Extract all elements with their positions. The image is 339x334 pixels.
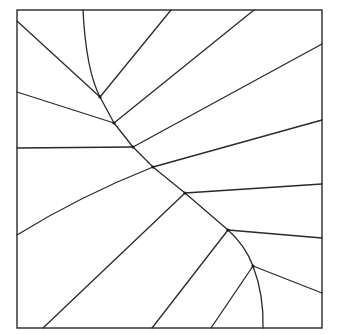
edge-e-v5-bottom [43, 193, 185, 328]
vertex-V3 [131, 145, 134, 148]
subdivision-diagram [0, 0, 339, 334]
edge-e-v2-v3 [114, 123, 133, 147]
square-frame [17, 10, 322, 328]
edge-e-left-v1 [17, 21, 100, 97]
vertex-V6 [226, 228, 229, 231]
edge-group [17, 10, 322, 328]
diagram-canvas [0, 0, 339, 334]
edge-e-v1-top [100, 10, 171, 97]
edge-e-v2-top [114, 10, 254, 123]
edge-e-v3-right [133, 44, 322, 147]
vertex-V2 [112, 121, 115, 124]
edge-e-v4-left [17, 167, 153, 235]
edge-e-v7-bottom [211, 266, 253, 328]
edge-e-v4-v5 [153, 167, 185, 193]
edge-curve-bottom [253, 266, 263, 328]
edge-e-v6-right [228, 230, 322, 238]
vertex-V7 [251, 264, 254, 267]
edge-e-left-v3 [17, 147, 133, 148]
edge-e-v4-right [153, 120, 322, 167]
vertex-V4 [151, 165, 154, 168]
edge-e-v7-right [253, 266, 322, 293]
vertex-V5 [183, 191, 186, 194]
edge-e-v5-v6 [185, 193, 228, 230]
edge-e-v5-right [185, 184, 322, 193]
edge-e-v3-v4 [133, 147, 153, 167]
vertex-V1 [98, 95, 101, 98]
vertex-group [98, 95, 254, 267]
edge-e-v6-v7 [228, 230, 253, 266]
edge-e-v6-bottom [152, 230, 228, 328]
